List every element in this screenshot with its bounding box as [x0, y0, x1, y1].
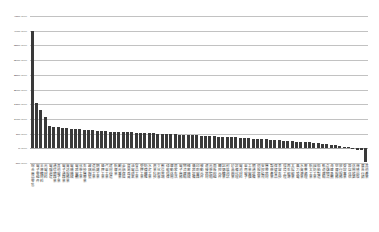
- bar: [61, 128, 64, 149]
- y-axis-tick-label: 450.0%: [14, 15, 27, 17]
- x-axis-tick-label: 精密機械: [186, 164, 190, 179]
- bar: [87, 130, 90, 148]
- x-axis-tick-label: 環境工程: [282, 164, 286, 179]
- bar: [304, 142, 307, 148]
- bar: [360, 148, 363, 150]
- x-axis-tick-label: 電子商務: [178, 164, 182, 179]
- bar: [221, 137, 224, 148]
- bar: [169, 134, 172, 148]
- bar: [217, 137, 220, 149]
- x-axis-tick-label: 傳播出版: [355, 164, 359, 179]
- bar-series: [30, 16, 368, 163]
- x-axis-tick-label: 餐飲事業: [342, 164, 346, 179]
- plot-area: 450.0%400.0%350.0%300.0%250.0%200.0%150.…: [30, 16, 368, 163]
- bar: [286, 141, 289, 148]
- x-axis-tick-label: 美容生技: [277, 164, 281, 179]
- x-axis-tick-label: 飯店住宿: [347, 164, 351, 179]
- x-axis-tick-label: 橡膠工業: [100, 164, 104, 179]
- x-axis-tick-label: 航太工業: [308, 164, 312, 179]
- x-axis-tick-label: 電機機械: [69, 164, 73, 179]
- bar: [135, 133, 138, 149]
- x-axis-tick-label: 運動休閒: [169, 164, 173, 179]
- x-axis-tick-label: 矽晶圓業: [230, 164, 234, 179]
- bar: [174, 134, 177, 148]
- bar: [182, 135, 185, 149]
- x-axis-tick-label: 旅行服務: [338, 164, 342, 179]
- x-axis-tick-label: 醫療器材: [264, 164, 268, 179]
- x-axis-tick-label: 印刷電路: [195, 164, 199, 179]
- bar: [338, 146, 341, 148]
- bar: [234, 137, 237, 148]
- bar: [347, 147, 350, 148]
- x-axis-tick-label: 廣告行銷: [360, 164, 364, 179]
- bar: [148, 133, 151, 148]
- bar: [187, 135, 190, 148]
- bar: [269, 140, 272, 149]
- bar: [91, 130, 94, 148]
- x-axis-tick-label: 安控監視: [260, 164, 264, 179]
- bar: [200, 136, 203, 149]
- x-axis-tick-label: 太陽能業: [290, 164, 294, 179]
- bar: [39, 110, 42, 149]
- bar: [31, 31, 34, 149]
- bar: [343, 147, 346, 149]
- bar: [247, 138, 250, 148]
- bar: [291, 141, 294, 148]
- y-axis-tick-label: 50.0%: [16, 132, 27, 134]
- bar: [195, 135, 198, 148]
- bar: [191, 135, 194, 148]
- bar: [126, 132, 129, 148]
- bar: [152, 133, 155, 148]
- bar: [70, 129, 73, 149]
- bar-chart: 450.0%400.0%350.0%300.0%250.0%200.0%150.…: [0, 0, 379, 232]
- x-axis-tick-label: 貿易百貨: [126, 164, 130, 179]
- x-axis-tick-label: 國防工業: [312, 164, 316, 179]
- bar: [122, 132, 125, 148]
- bar: [260, 139, 263, 148]
- x-axis-tick-label: 觀光事業: [117, 164, 121, 179]
- x-axis-tick-label: 通信網路業: [52, 164, 56, 183]
- x-axis-tick-label: 製藥產業: [269, 164, 273, 179]
- x-axis-tick-label: 油電燃氣: [130, 164, 134, 179]
- x-axis-tick-label: 紡織纖維: [143, 164, 147, 179]
- bar: [208, 136, 211, 148]
- x-axis-labels: 綜合商品零售電子零組件半導體材料光電材料電腦週邊通信網路業其他電子業電子通路業資…: [30, 164, 368, 230]
- bar: [334, 145, 337, 148]
- bar: [52, 127, 55, 149]
- bar: [109, 132, 112, 149]
- bar: [143, 133, 146, 148]
- bar: [204, 136, 207, 148]
- bar: [35, 103, 38, 149]
- bar: [243, 138, 246, 148]
- x-axis-tick-label: 儀器設備: [191, 164, 195, 179]
- bar: [308, 142, 311, 148]
- x-axis-tick-label: 廢棄處理: [303, 164, 307, 179]
- bar: [317, 143, 320, 148]
- bar: [226, 137, 229, 148]
- x-axis-tick-label: 軌道運輸: [321, 164, 325, 179]
- bar: [104, 131, 107, 148]
- x-axis-tick-label: 海運承攬: [329, 164, 333, 179]
- y-axis-tick-label: 150.0%: [14, 103, 27, 105]
- y-axis-tick-label: -50.0%: [15, 162, 27, 164]
- x-axis-tick-label: 綜合商品零售: [30, 164, 34, 187]
- bar: [139, 133, 142, 148]
- y-axis-tick-label: 200.0%: [14, 88, 27, 90]
- bar: [74, 129, 77, 148]
- bar: [83, 130, 86, 149]
- bar: [325, 144, 328, 148]
- bar: [330, 145, 333, 149]
- x-axis-tick-label: 光學鏡頭: [208, 164, 212, 179]
- bar: [100, 131, 103, 148]
- y-axis-tick-label: 0.0%: [18, 147, 27, 149]
- bar: [156, 134, 159, 149]
- x-axis-tick-label: 記憶體業: [221, 164, 225, 179]
- x-axis-tick-label: 保健食品: [273, 164, 277, 179]
- bar: [351, 148, 354, 149]
- x-axis-tick-label: 再生能源: [286, 164, 290, 179]
- x-axis-tick-label: 網通設備: [251, 164, 255, 179]
- bar: [256, 139, 259, 148]
- bar: [65, 128, 68, 148]
- x-axis-tick-label: 封裝測試: [225, 164, 229, 179]
- y-axis-tick-label: 250.0%: [14, 74, 27, 76]
